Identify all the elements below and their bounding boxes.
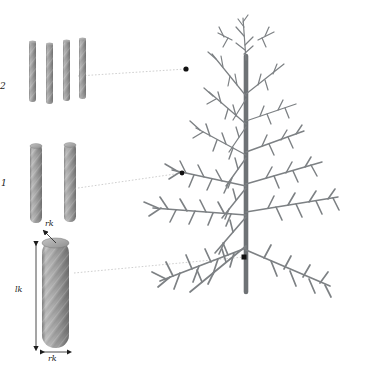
tree-cylinder-figure xyxy=(0,0,374,380)
leader-branch xyxy=(78,173,182,188)
radius-top-label: rk xyxy=(45,220,54,228)
branch-cylinder xyxy=(64,143,76,222)
twig-cylinder xyxy=(46,43,53,105)
level-label-twig: 2 xyxy=(0,82,6,91)
branch-cylinder xyxy=(30,144,42,223)
twig-cylinder xyxy=(79,38,86,100)
tree-apex xyxy=(218,15,274,60)
length-label: lk xyxy=(15,286,22,294)
twig-cylinder xyxy=(29,41,36,103)
level-label-branch: 1 xyxy=(1,179,7,188)
radius-bottom-label: rk xyxy=(48,355,57,363)
tree-whorl xyxy=(204,88,296,152)
trunk-cylinder-group xyxy=(42,238,69,348)
marker-dot-twig xyxy=(183,66,188,71)
branch-cylinder-group xyxy=(30,143,76,223)
marker-dot-trunk xyxy=(242,255,247,260)
tree-whorl xyxy=(144,189,339,254)
twig-cylinder-group xyxy=(29,38,86,105)
twig-cylinder xyxy=(63,40,70,102)
marker-dot-branch xyxy=(180,171,185,176)
leader-twig xyxy=(78,69,186,76)
tree-whorl xyxy=(152,243,331,297)
